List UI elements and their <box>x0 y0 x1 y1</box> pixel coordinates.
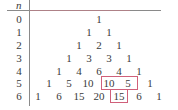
column-divider <box>29 0 30 106</box>
triangle-cell: 3 <box>106 52 112 64</box>
triangle-cell: 15 <box>74 90 85 102</box>
row-label: 1 <box>15 26 23 38</box>
triangle-cell: 1 <box>76 39 82 51</box>
highlight-box-row6 <box>110 89 128 103</box>
triangle-cell: 6 <box>56 90 62 102</box>
triangle-cell: 1 <box>35 90 41 102</box>
row-label: 5 <box>15 77 23 89</box>
row-label: 2 <box>15 39 23 51</box>
triangle-cell: 10 <box>83 77 94 89</box>
triangle-cell: 4 <box>76 65 82 77</box>
triangle-cell: 3 <box>86 52 92 64</box>
row-label: 3 <box>15 52 23 64</box>
triangle-cell: 1 <box>46 77 52 89</box>
triangle-cell: 1 <box>96 13 102 25</box>
triangle-cell: 6 <box>136 90 142 102</box>
triangle-cell: 1 <box>126 52 132 64</box>
triangle-cell: 1 <box>106 26 112 38</box>
triangle-cell: 1 <box>86 26 92 38</box>
triangle-cell: 1 <box>66 52 72 64</box>
header-divider-tint <box>30 10 130 11</box>
highlight-box-row5 <box>101 76 138 90</box>
triangle-cell: 5 <box>66 77 72 89</box>
triangle-cell: 1 <box>116 39 122 51</box>
triangle-cell: 1 <box>147 77 153 89</box>
n-column-header: n <box>16 0 22 11</box>
triangle-cell: 20 <box>94 90 105 102</box>
row-label: 4 <box>15 65 23 77</box>
row-label: 0 <box>15 13 23 25</box>
triangle-cell: 1 <box>156 90 162 102</box>
row-label: 6 <box>15 90 23 102</box>
triangle-cell: 2 <box>96 39 102 51</box>
triangle-cell: 1 <box>56 65 62 77</box>
